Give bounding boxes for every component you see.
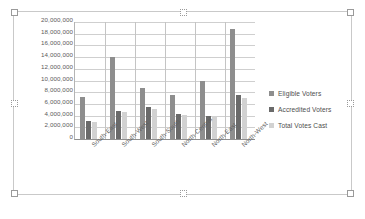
bar[interactable] <box>80 97 85 139</box>
y-axis-tick: 14,000,000 <box>17 52 73 58</box>
bar-group <box>105 22 135 139</box>
bar[interactable] <box>152 109 157 139</box>
y-axis-tick: 4,000,000 <box>17 111 73 117</box>
legend-swatch-icon <box>269 91 274 96</box>
chart-object[interactable]: 20,000,00018,000,00016,000,00014,000,000… <box>13 11 352 195</box>
y-axis-tick: 20,000,000 <box>17 17 73 23</box>
plot-area <box>74 22 255 140</box>
bar-group <box>135 22 165 139</box>
resize-handle-top-left[interactable] <box>11 9 18 16</box>
bar[interactable] <box>86 121 91 139</box>
resize-handle-top-center[interactable] <box>180 9 187 16</box>
y-axis-tick: 10,000,000 <box>17 76 73 82</box>
resize-handle-bottom-center[interactable] <box>180 190 187 197</box>
x-axis-tick-labels: South-EastSouth-WestSouth-SouthNorth-Cen… <box>74 141 264 193</box>
y-axis-tick: 2,000,000 <box>17 122 73 128</box>
y-axis-tick: 8,000,000 <box>17 87 73 93</box>
y-axis-tick-labels: 20,000,00018,000,00016,000,00014,000,000… <box>17 20 73 139</box>
y-axis-tick: 0 <box>17 134 73 140</box>
bar[interactable] <box>242 98 247 139</box>
resize-handle-middle-left[interactable] <box>11 100 18 107</box>
resize-handle-bottom-left[interactable] <box>11 190 18 197</box>
chart-plot-wrapper: 20,000,00018,000,00016,000,00014,000,000… <box>14 12 351 194</box>
bar[interactable] <box>236 95 241 139</box>
legend-swatch-icon <box>269 107 274 112</box>
chart-legend[interactable]: Eligible VotersAccredited VotersTotal Vo… <box>269 90 353 138</box>
y-axis-tick: 18,000,000 <box>17 29 73 35</box>
legend-item[interactable]: Eligible Voters <box>269 90 353 97</box>
legend-swatch-icon <box>269 123 274 128</box>
resize-handle-top-right[interactable] <box>347 9 354 16</box>
bar-group <box>75 22 105 139</box>
legend-item-label: Accredited Voters <box>278 106 331 113</box>
y-axis-tick: 12,000,000 <box>17 64 73 70</box>
resize-handle-middle-right[interactable] <box>347 100 354 107</box>
legend-item[interactable]: Accredited Voters <box>269 106 353 113</box>
legend-item-label: Eligible Voters <box>278 90 321 97</box>
bar[interactable] <box>122 112 127 139</box>
legend-item[interactable]: Total Votes Cast <box>269 122 353 129</box>
y-axis-tick: 6,000,000 <box>17 99 73 105</box>
bar-group <box>225 22 255 139</box>
resize-handle-bottom-right[interactable] <box>347 190 354 197</box>
legend-item-label: Total Votes Cast <box>278 122 327 129</box>
y-axis-tick: 16,000,000 <box>17 40 73 46</box>
